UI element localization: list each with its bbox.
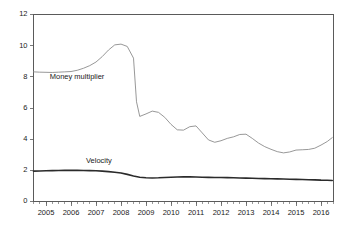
- y-tick-label: 0: [23, 196, 27, 205]
- x-tick-label: 2010: [163, 208, 180, 217]
- series-line-velocity: [34, 170, 333, 180]
- y-tick-label: 2: [23, 165, 27, 174]
- series-line-money-multiplier: [34, 44, 333, 153]
- x-tick-label: 2012: [213, 208, 230, 217]
- y-axis-tick-marks: [30, 15, 34, 202]
- y-tick-label: 4: [23, 134, 27, 143]
- series-inline-labels: Money multiplierVelocity: [50, 72, 112, 165]
- y-tick-label: 6: [23, 103, 27, 112]
- x-tick-label: 2015: [288, 208, 305, 217]
- x-tick-label: 2009: [138, 208, 155, 217]
- annotation-money-multiplier: Money multiplier: [50, 72, 105, 81]
- y-tick-label: 12: [19, 9, 27, 18]
- x-tick-label: 2013: [238, 208, 255, 217]
- x-tick-label: 2008: [113, 208, 130, 217]
- chart-figure: 024681012 200520062007200820092010201120…: [0, 0, 348, 231]
- x-tick-label: 2007: [88, 208, 105, 217]
- data-series-group: [34, 44, 333, 180]
- x-tick-label: 2005: [38, 208, 55, 217]
- y-tick-label: 10: [19, 41, 27, 50]
- x-tick-label: 2016: [313, 208, 330, 217]
- x-axis-tick-labels: 2005200620072008200920102011201220132014…: [38, 208, 330, 217]
- y-tick-label: 8: [23, 72, 27, 81]
- annotation-velocity: Velocity: [86, 156, 112, 165]
- x-tick-label: 2014: [263, 208, 280, 217]
- x-tick-label: 2006: [63, 208, 80, 217]
- plot-frame: [34, 15, 334, 202]
- line-chart-canvas: 024681012 200520062007200820092010201120…: [0, 0, 348, 231]
- y-axis-tick-labels: 024681012: [19, 9, 27, 205]
- x-tick-label: 2011: [188, 208, 204, 217]
- axis-frame-lines: [34, 15, 334, 202]
